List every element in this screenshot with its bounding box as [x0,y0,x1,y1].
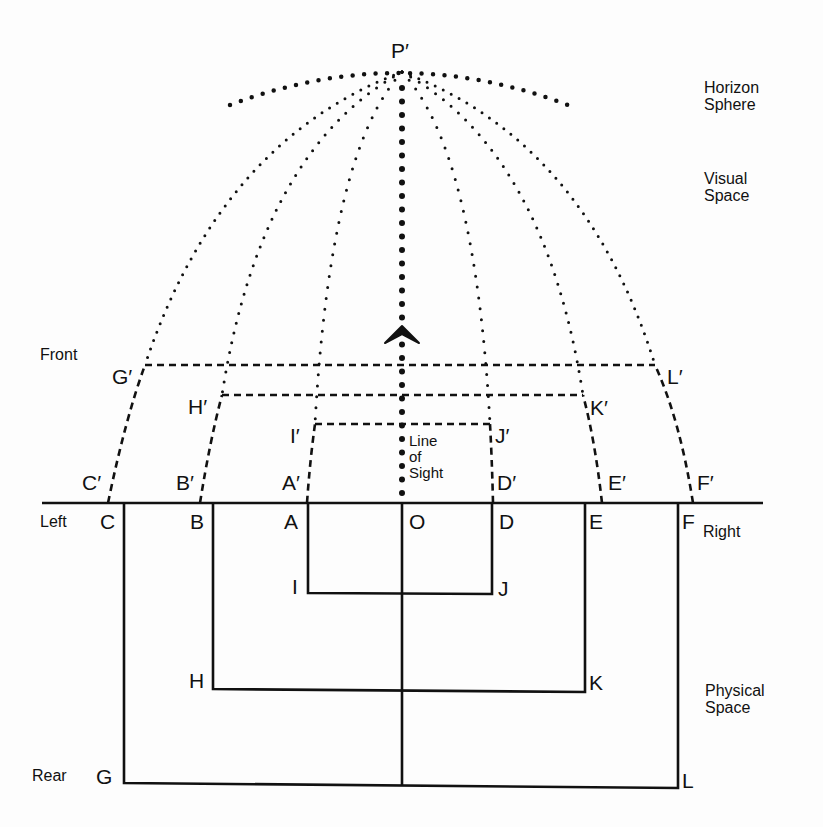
label-front: Front [40,347,77,363]
label-h: H [189,670,204,691]
label-b: B [190,511,204,532]
label-d: D [499,511,514,532]
label-d-prime: D′ [497,472,516,493]
label-a: A [284,511,298,532]
label-physical-space: Physical Space [705,682,765,716]
projection-curve-g [145,72,402,365]
line-of-sight-arrow-icon [385,326,419,343]
label-o: O [409,511,425,532]
label-l-prime: L′ [667,366,683,387]
label-a-prime: A′ [282,472,300,493]
label-c-prime: C′ [82,472,101,493]
label-k: K [589,672,603,693]
label-e: E [589,511,603,532]
label-rear: Rear [32,768,67,784]
label-g-prime: G′ [112,366,132,387]
label-visual-space: Visual Space [704,170,749,204]
label-l: L [682,770,694,791]
label-i-prime: I′ [290,425,300,446]
label-left: Left [40,514,67,530]
projection-curve-h [222,72,402,395]
projection-curve-i [315,72,402,424]
label-k-prime: K′ [590,397,608,418]
perspective-diagram [0,0,823,827]
label-f: F [682,511,695,532]
visual-edge-d-j [490,424,493,503]
label-c: C [100,511,115,532]
projection-curve-k [402,72,583,395]
label-g: G [96,766,112,787]
projection-curve-j [402,72,490,424]
visual-edge-a-i [307,424,315,503]
label-i: I [292,576,298,597]
projection-curve-l [402,72,655,365]
rect-bhke [213,503,585,692]
label-j-prime: J′ [495,425,509,446]
label-horizon-sphere: Horizon Sphere [704,79,759,113]
label-j: J [498,578,509,599]
rect-aidj [308,503,492,594]
label-b-prime: B′ [176,472,194,493]
label-line-of-sight: Line of Sight [409,433,443,481]
label-right: Right [703,524,740,540]
label-f-prime: F′ [697,472,714,493]
label-p-prime: P′ [391,40,409,61]
label-h-prime: H′ [188,396,207,417]
label-e-prime: E′ [608,472,626,493]
